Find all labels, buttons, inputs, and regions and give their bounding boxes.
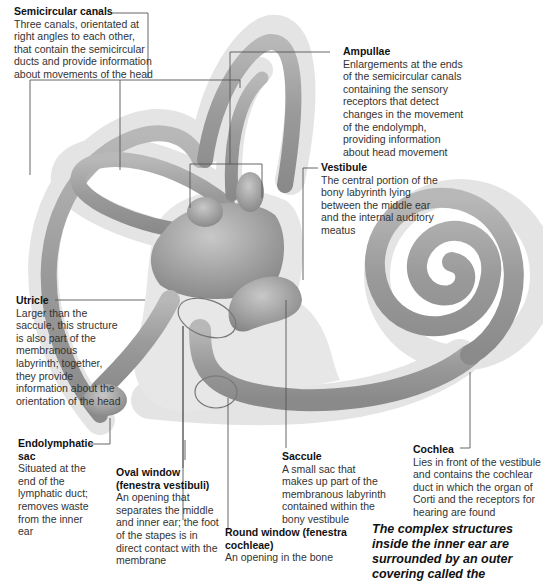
label-vestibule: Vestibule The central portion of the bon… <box>321 161 441 237</box>
vestibule-description: The central portion of the bony labyrint… <box>321 174 441 237</box>
semicircular-canals-title: Semicircular canals <box>14 5 154 18</box>
label-semicircular-canals: Semicircular canals Three canals, orient… <box>14 5 154 81</box>
label-round-window: Round window (fenestra cochleae) An open… <box>225 526 365 564</box>
utricle-title: Utricle <box>16 294 121 307</box>
label-saccule: Saccule A small sac that makes up part o… <box>282 450 387 526</box>
endolymphatic-sac-title: Endolymphatic sac <box>18 437 98 462</box>
oval-window-description: An opening that separates the middle and… <box>116 491 221 567</box>
label-oval-window: Oval window (fenestra vestibuli) An open… <box>116 466 221 567</box>
vestibule-title: Vestibule <box>321 161 441 174</box>
utricle-description: Larger than the saccule, this structure … <box>16 307 121 408</box>
label-ampullae: Ampullae Enlargements at the ends of the… <box>343 45 465 158</box>
ampullae-title: Ampullae <box>343 45 465 58</box>
caption: The complex structures inside the inner … <box>372 522 543 582</box>
cochlea-title: Cochlea <box>413 443 543 456</box>
label-endolymphatic-sac: Endolymphatic sac Situated at the end of… <box>18 437 98 538</box>
ampulla-2 <box>236 172 264 212</box>
endolymphatic-sac-description: Situated at the end of the lymphatic duc… <box>18 462 98 538</box>
ampullae-description: Enlargements at the ends of the semicirc… <box>343 58 465 159</box>
round-window-title: Round window (fenestra cochleae) <box>225 526 365 551</box>
saccule-title: Saccule <box>282 450 387 463</box>
saccule-description: A small sac that makes up part of the me… <box>282 463 387 526</box>
label-cochlea: Cochlea Lies in front of the vestibule a… <box>413 443 543 519</box>
oval-window-title: Oval window (fenestra vestibuli) <box>116 466 221 491</box>
cochlea-description: Lies in front of the vestibule and conta… <box>413 456 543 519</box>
ampulla-1 <box>187 197 223 227</box>
round-window-description: An opening in the bone <box>225 551 365 564</box>
semicircular-canals-description: Three canals, orientated at right angles… <box>14 18 154 81</box>
label-utricle: Utricle Larger than the saccule, this st… <box>16 294 121 407</box>
